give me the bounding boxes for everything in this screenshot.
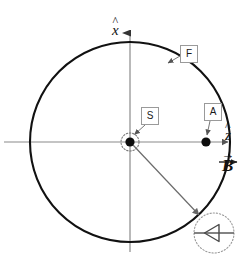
ray-from-source-to-detail <box>133 145 199 215</box>
x-axis-label: ^ x <box>112 22 119 39</box>
callout-F-leader <box>168 56 180 63</box>
b-field-label: → B <box>222 156 233 176</box>
callout-S-box[interactable]: S <box>141 107 159 125</box>
b-vector-accent: → <box>221 147 234 163</box>
x-hat-accent: ^ <box>113 14 119 29</box>
figure-canvas: F S A ^ x ^ z → B <box>0 0 249 264</box>
callout-A-leader <box>207 121 210 135</box>
callout-S-leader <box>135 125 146 135</box>
z-hat-accent: ^ <box>225 119 231 134</box>
boundary-point-dot <box>201 137 210 146</box>
callout-A-box[interactable]: A <box>204 103 222 121</box>
z-axis-label: ^ z <box>225 127 231 144</box>
figure-drawing <box>0 0 249 264</box>
callout-F-box[interactable]: F <box>180 45 198 63</box>
